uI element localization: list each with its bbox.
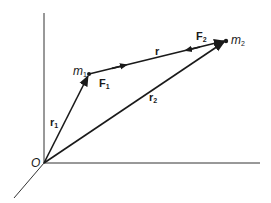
vector-r-label: r: [155, 45, 160, 57]
force-f2-arrow: [188, 47, 200, 50]
vector-r2-label: r2: [149, 91, 157, 104]
vector-diagram: O m1 m2 r1 r2 r F1 F2: [0, 0, 271, 203]
origin-label: O: [31, 156, 40, 170]
mass-m2-label: m2: [231, 33, 245, 47]
mass-m1-label: m1: [73, 64, 87, 78]
force-f2-label: F2: [196, 30, 207, 43]
mass-m1-point: [87, 72, 91, 76]
force-f1-label: F1: [99, 77, 110, 90]
vector-r2: [44, 42, 224, 163]
force-f1-arrow: [112, 66, 124, 69]
mass-m2-point: [224, 39, 228, 43]
vector-r1-label: r1: [50, 116, 58, 129]
